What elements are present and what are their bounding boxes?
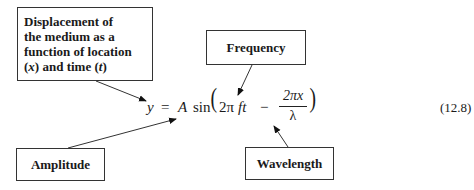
- frequency-label: Frequency: [227, 40, 286, 55]
- wavelength-label-box: Wavelength: [245, 147, 334, 180]
- eq-two-pi: 2π: [219, 99, 234, 116]
- amplitude-label: Amplitude: [31, 157, 90, 172]
- eq-y: y: [147, 99, 154, 116]
- eq-sin: sin: [193, 99, 211, 116]
- eq-minus: −: [260, 99, 268, 116]
- frequency-arrow: [238, 65, 252, 95]
- displacement-arrow: [96, 81, 146, 101]
- eq-equals: =: [161, 99, 169, 116]
- equation-number: (12.8): [440, 100, 471, 116]
- and-time-text: ) and time (: [35, 59, 99, 74]
- amplitude-arrow: [68, 119, 176, 148]
- eq-left-paren: (: [210, 82, 217, 114]
- eq-ft: ft: [238, 99, 246, 116]
- eq-frac-denominator: λ: [277, 108, 309, 124]
- displacement-line-4: (x) and time (t): [24, 59, 146, 74]
- close-paren: ): [102, 59, 106, 74]
- amplitude-label-box: Amplitude: [16, 148, 105, 181]
- eq-amplitude-A: A: [178, 99, 187, 116]
- eq-frac-bar: [279, 106, 307, 107]
- eq-right-paren: ): [309, 82, 316, 114]
- eq-frac-numerator: 2πx: [277, 88, 309, 104]
- displacement-line-1: Displacement of: [24, 14, 146, 29]
- frequency-label-box: Frequency: [206, 30, 306, 65]
- displacement-line-2: the medium as a: [24, 29, 146, 44]
- displacement-line-3: function of location: [24, 44, 146, 59]
- displacement-label-box: Displacement of the medium as a function…: [17, 7, 153, 81]
- wavelength-arrow: [274, 126, 288, 147]
- wavelength-label: Wavelength: [257, 156, 323, 171]
